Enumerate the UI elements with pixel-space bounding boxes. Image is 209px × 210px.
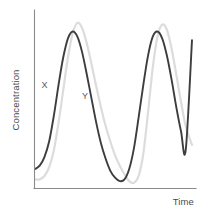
series-line-x bbox=[35, 31, 192, 181]
series-line-y bbox=[35, 23, 192, 183]
concentration-time-plot: Concentration Time X Y bbox=[0, 0, 209, 210]
series-label-x: X bbox=[42, 80, 48, 90]
x-axis-title: Time bbox=[173, 196, 194, 207]
y-axis-title: Concentration bbox=[10, 69, 21, 130]
series-label-y: Y bbox=[82, 91, 88, 101]
chart-container: Concentration Time X Y bbox=[0, 0, 209, 210]
